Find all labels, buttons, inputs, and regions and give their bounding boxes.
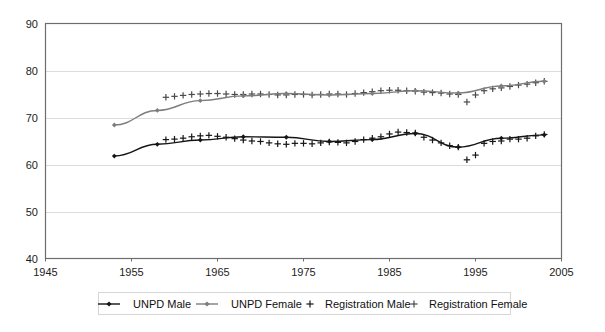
series-registration-female xyxy=(163,78,548,105)
data-point-marker xyxy=(327,93,332,98)
data-point-marker xyxy=(456,145,461,150)
y-tick-label: 90 xyxy=(26,18,38,30)
data-point-marker xyxy=(206,132,212,138)
legend-label: UNPD Female xyxy=(231,298,302,310)
data-point-marker xyxy=(300,140,306,146)
data-point-marker xyxy=(464,99,470,105)
x-tick-label: 1965 xyxy=(205,266,229,278)
data-point-marker xyxy=(507,83,513,89)
data-point-marker xyxy=(413,131,418,136)
legend-item[interactable]: Registration Male xyxy=(306,298,410,310)
y-tick-label: 70 xyxy=(26,112,38,124)
legend-label: UNPD Male xyxy=(133,298,191,310)
data-point-marker xyxy=(155,108,160,113)
data-point-marker xyxy=(306,300,313,307)
data-point-marker xyxy=(198,98,203,103)
data-point-marker xyxy=(542,79,547,84)
data-point-marker xyxy=(223,91,229,97)
data-point-marker xyxy=(275,141,281,147)
data-point-marker xyxy=(447,91,453,97)
data-point-marker xyxy=(335,139,341,145)
series-unpd-female xyxy=(112,79,547,128)
data-point-marker xyxy=(361,89,367,95)
data-point-marker xyxy=(180,92,186,98)
data-point-marker xyxy=(214,90,220,96)
y-axis-tick-labels: 908070605040 xyxy=(26,18,38,265)
data-point-marker xyxy=(198,138,203,143)
data-point-marker xyxy=(309,141,315,147)
data-point-marker xyxy=(106,301,111,306)
data-point-marker xyxy=(542,132,547,137)
x-tick-label: 1945 xyxy=(33,266,57,278)
x-tick-label: 1975 xyxy=(291,266,315,278)
data-point-marker xyxy=(197,91,203,97)
data-point-marker xyxy=(171,93,177,99)
series-registration-male xyxy=(163,129,548,163)
data-point-marker xyxy=(241,134,246,139)
data-point-marker xyxy=(413,88,418,93)
legend-item[interactable]: Registration Female xyxy=(410,298,527,310)
data-point-marker xyxy=(257,138,263,144)
data-point-marker xyxy=(257,91,263,97)
data-point-marker xyxy=(155,142,160,147)
y-tick-label: 60 xyxy=(26,159,38,171)
data-point-marker xyxy=(472,152,478,158)
chart-legend: UNPD MaleUNPD FemaleRegistration MaleReg… xyxy=(98,293,527,315)
data-point-marker xyxy=(249,138,255,144)
data-point-marker xyxy=(283,141,289,147)
data-point-marker xyxy=(189,91,195,97)
data-point-marker xyxy=(464,157,470,163)
data-point-marker xyxy=(292,91,298,97)
data-point-marker xyxy=(163,136,169,142)
data-point-marker xyxy=(180,135,186,141)
life-expectancy-line-chart: 908070605040 194519551965197519851995200… xyxy=(0,0,605,332)
x-tick-label: 2005 xyxy=(549,266,573,278)
data-point-marker xyxy=(112,154,117,159)
data-point-marker xyxy=(266,140,272,146)
data-point-marker xyxy=(386,131,392,137)
data-point-marker xyxy=(421,89,427,95)
legend-label: Registration Male xyxy=(325,298,411,310)
data-point-marker xyxy=(292,140,298,146)
legend-item[interactable]: UNPD Male xyxy=(98,298,191,310)
chart-container: 908070605040 194519551965197519851995200… xyxy=(0,0,605,332)
data-point-marker xyxy=(499,136,504,141)
data-point-marker xyxy=(335,91,341,97)
y-tick-label: 50 xyxy=(26,206,38,218)
x-tick-label: 1995 xyxy=(463,266,487,278)
data-point-marker xyxy=(327,139,332,144)
data-point-marker xyxy=(275,92,281,98)
legend-item[interactable]: UNPD Female xyxy=(196,298,302,310)
data-point-marker xyxy=(352,138,358,144)
y-tick-label: 40 xyxy=(26,253,38,265)
data-point-marker xyxy=(533,80,539,86)
data-point-marker xyxy=(189,134,195,140)
x-tick-label: 1985 xyxy=(377,266,401,278)
x-tick-label: 1955 xyxy=(119,266,143,278)
data-point-marker xyxy=(206,90,212,96)
data-point-marker xyxy=(395,129,401,135)
y-tick-label: 80 xyxy=(26,65,38,77)
data-point-marker xyxy=(507,136,513,142)
data-point-marker xyxy=(472,92,478,98)
data-point-marker xyxy=(204,301,209,306)
data-point-marker xyxy=(163,94,169,100)
legend-label: Registration Female xyxy=(429,298,527,310)
data-point-marker xyxy=(112,123,117,128)
data-point-marker xyxy=(284,135,289,140)
x-axis-tick-labels: 1945195519651975198519952005 xyxy=(33,259,573,279)
data-point-marker xyxy=(410,300,417,307)
data-point-marker xyxy=(429,89,435,95)
data-point-marker xyxy=(171,136,177,142)
